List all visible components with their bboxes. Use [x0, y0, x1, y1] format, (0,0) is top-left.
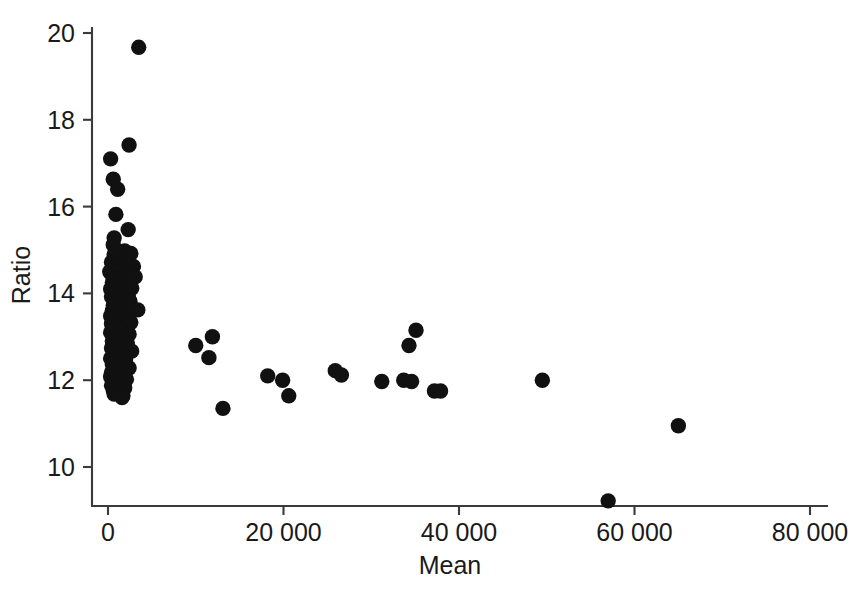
data-point: [114, 390, 129, 405]
data-point: [103, 151, 118, 166]
x-tick-label: 40 000: [421, 518, 497, 546]
data-point: [374, 374, 389, 389]
data-point: [215, 401, 230, 416]
data-point: [260, 368, 275, 383]
axes: [92, 28, 827, 506]
data-points: [102, 40, 686, 509]
data-point: [600, 493, 615, 508]
data-point: [401, 338, 416, 353]
data-point: [275, 373, 290, 388]
y-tick-label: 20: [47, 19, 75, 47]
data-point: [404, 374, 419, 389]
data-point: [408, 323, 423, 338]
data-point: [334, 367, 349, 382]
y-tick-label: 12: [47, 366, 75, 394]
y-tick-label: 18: [47, 106, 75, 134]
x-tick-label: 20 000: [245, 518, 321, 546]
data-point: [121, 137, 136, 152]
x-tick-label: 0: [101, 518, 115, 546]
data-point: [205, 329, 220, 344]
y-axis-title: Ratio: [7, 246, 35, 304]
data-point: [131, 40, 146, 55]
data-point: [120, 222, 135, 237]
y-tick-label: 14: [47, 279, 75, 307]
data-point: [671, 418, 686, 433]
x-tick-labels: 020 00040 00060 00080 000: [101, 518, 848, 546]
data-point: [110, 182, 125, 197]
data-point: [188, 338, 203, 353]
y-tick-label: 16: [47, 193, 75, 221]
data-point: [108, 207, 123, 222]
x-axis-title: Mean: [419, 551, 482, 579]
x-tick-label: 60 000: [596, 518, 672, 546]
data-point: [201, 350, 216, 365]
plot-canvas: 020 00040 00060 00080 000 101214161820 M…: [0, 0, 859, 595]
x-tick-label: 80 000: [772, 518, 848, 546]
data-point: [535, 373, 550, 388]
data-point: [281, 388, 296, 403]
axis-spine: [92, 28, 827, 506]
data-point: [433, 383, 448, 398]
tick-marks: [83, 33, 810, 515]
y-tick-label: 10: [47, 453, 75, 481]
y-tick-labels: 101214161820: [47, 19, 75, 481]
scatter-plot-figure: 020 00040 00060 00080 000 101214161820 M…: [0, 0, 859, 595]
